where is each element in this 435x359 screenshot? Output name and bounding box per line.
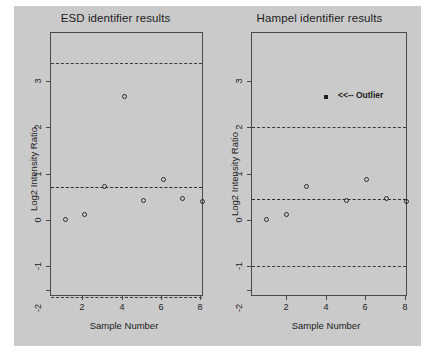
panel-hampel-ylabel-neg1: -1	[234, 258, 244, 274]
panel-esd-lower-bound-line	[51, 297, 202, 298]
panel-esd-ylabel-1: 1	[33, 166, 43, 182]
figure-root: ESD identifier results Log2 Intensity Ra…	[0, 0, 435, 359]
panel-esd-xlabel-2: 2	[74, 302, 90, 312]
panel-hampel-xlabel-8: 8	[397, 302, 413, 312]
data-point-outlier	[324, 95, 328, 99]
panel-esd-x-axis-title: Sample Number	[24, 320, 224, 331]
data-point	[304, 184, 309, 189]
data-point	[384, 196, 389, 201]
outlier-annotation: <<-- Outlier	[338, 90, 383, 100]
data-point	[344, 198, 349, 203]
panel-esd-title: ESD identifier results	[14, 12, 217, 24]
panel-hampel-x-axis-title: Sample Number	[226, 320, 426, 331]
panel-esd-plot-frame	[50, 32, 203, 296]
panel-hampel-ytick-0	[247, 220, 251, 221]
panel-hampel-ylabel-1: 1	[234, 166, 244, 182]
data-point	[102, 184, 107, 189]
data-point	[161, 177, 166, 182]
data-point	[82, 212, 87, 217]
panel-hampel-ylabel-0: 0	[234, 212, 244, 228]
panel-esd-ylabel-3: 3	[33, 73, 43, 89]
panel-hampel-xtick-4	[326, 296, 327, 300]
panel-esd-xlabel-6: 6	[153, 302, 169, 312]
panel-hampel-ytick-neg1	[247, 266, 251, 267]
data-point	[364, 177, 369, 182]
panel-hampel-xtick-6	[365, 296, 366, 300]
panel-esd-ylabel-neg1: -1	[33, 258, 43, 274]
data-point	[141, 198, 146, 203]
panel-esd-xtick-8	[200, 296, 201, 300]
panel-esd-ytick-1	[46, 174, 50, 175]
panel-hampel-ytick-neg2	[247, 290, 251, 291]
panel-esd-ylabel-2: 2	[33, 119, 43, 135]
panel-esd-ylabel-0: 0	[33, 212, 43, 228]
panel-esd-ytick-neg2	[46, 290, 50, 291]
panel-esd-xlabel-8: 8	[192, 302, 208, 312]
panel-hampel-title: Hampel identifier results	[218, 12, 421, 24]
panel-esd-xlabel-4: 4	[114, 302, 130, 312]
data-point	[284, 212, 289, 217]
data-point	[63, 217, 68, 222]
panel-esd: ESD identifier results Log2 Intensity Ra…	[14, 6, 217, 346]
panel-esd-xtick-2	[82, 296, 83, 300]
panel-esd-ytick-neg1	[46, 266, 50, 267]
data-point	[404, 199, 409, 204]
panel-hampel-xlabel-2: 2	[278, 302, 294, 312]
panel-hampel-lower-bound-line	[252, 266, 406, 267]
plot-canvas: ESD identifier results Log2 Intensity Ra…	[14, 6, 421, 346]
data-point	[122, 94, 127, 99]
panel-hampel-ylabel-3: 3	[234, 73, 244, 89]
panel-hampel: Hampel identifier results Log2 Intensity…	[218, 6, 421, 346]
panel-hampel-ylabel-2: 2	[234, 119, 244, 135]
panel-hampel-ylabel-neg2: -2	[234, 300, 244, 316]
panel-hampel-ytick-1	[247, 174, 251, 175]
panel-hampel-upper-bound-line	[252, 127, 406, 128]
panel-esd-upper-bound-line	[51, 63, 202, 64]
panel-esd-ytick-0	[46, 220, 50, 221]
panel-hampel-xtick-2	[286, 296, 287, 300]
panel-esd-xtick-4	[122, 296, 123, 300]
panel-esd-ylabel-neg2: -2	[33, 300, 43, 316]
panel-hampel-ytick-3	[247, 81, 251, 82]
panel-hampel-xlabel-6: 6	[357, 302, 373, 312]
panel-hampel-xlabel-4: 4	[318, 302, 334, 312]
panel-esd-ytick-3	[46, 81, 50, 82]
panel-hampel-ytick-2	[247, 127, 251, 128]
panel-esd-xtick-6	[161, 296, 162, 300]
panel-hampel-xtick-8	[405, 296, 406, 300]
panel-esd-ytick-2	[46, 127, 50, 128]
panel-hampel-center-line	[252, 199, 406, 200]
data-point	[264, 217, 269, 222]
data-point	[200, 199, 205, 204]
panel-hampel-plot-frame	[251, 32, 407, 296]
data-point	[180, 196, 185, 201]
panel-esd-center-line	[51, 187, 202, 188]
